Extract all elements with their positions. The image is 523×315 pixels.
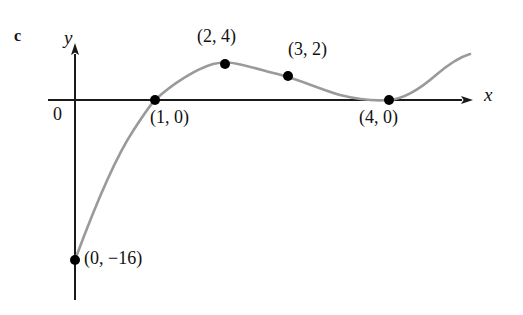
data-point-p2	[220, 59, 230, 69]
coordinate-plane	[0, 0, 523, 315]
data-point-p0	[70, 255, 80, 265]
data-point-p4	[384, 95, 394, 105]
x-axis-label: x	[484, 85, 492, 104]
point-label-p4: (4, 0)	[359, 108, 398, 126]
origin-label: 0	[53, 105, 62, 123]
y-axis-label: y	[64, 28, 72, 47]
graph-figure: c y x 0 (0, −16) (1, 0) (2, 4) (3, 2) (4…	[0, 0, 523, 315]
point-label-p3: (3, 2)	[288, 40, 327, 58]
point-label-p0: (0, −16)	[84, 249, 142, 267]
point-label-p2: (2, 4)	[197, 27, 236, 45]
data-point-p3	[283, 71, 293, 81]
data-point-p1	[150, 95, 160, 105]
curve-path	[75, 54, 470, 260]
point-label-p1: (1, 0)	[150, 108, 189, 126]
part-label: c	[14, 28, 21, 44]
